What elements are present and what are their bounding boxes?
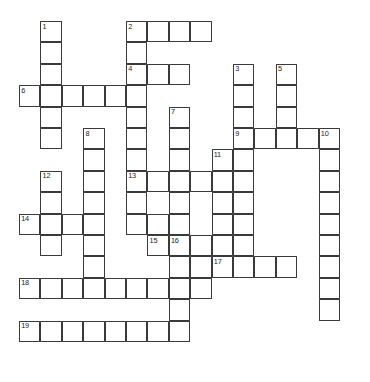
crossword-grid[interactable]: 12345678910111213141516171819 <box>0 0 370 382</box>
crossword-cell[interactable] <box>169 321 190 342</box>
crossword-cell[interactable] <box>319 171 340 192</box>
crossword-cell[interactable] <box>40 321 61 342</box>
crossword-cell[interactable] <box>276 256 297 277</box>
crossword-cell[interactable] <box>83 235 104 256</box>
crossword-cell[interactable] <box>212 192 233 213</box>
crossword-cell[interactable] <box>83 149 104 170</box>
crossword-cell[interactable] <box>40 42 61 63</box>
crossword-cell[interactable] <box>169 64 190 85</box>
crossword-cell[interactable] <box>83 278 104 299</box>
crossword-cell[interactable] <box>126 192 147 213</box>
crossword-cell[interactable] <box>40 171 61 192</box>
crossword-cell[interactable] <box>62 214 83 235</box>
crossword-cell[interactable] <box>169 21 190 42</box>
crossword-cell[interactable] <box>147 235 168 256</box>
crossword-cell[interactable] <box>254 128 275 149</box>
crossword-cell[interactable] <box>233 85 254 106</box>
crossword-cell[interactable] <box>147 214 168 235</box>
crossword-cell[interactable] <box>40 235 61 256</box>
crossword-cell[interactable] <box>126 321 147 342</box>
crossword-cell[interactable] <box>169 256 190 277</box>
crossword-cell[interactable] <box>190 235 211 256</box>
crossword-cell[interactable] <box>126 64 147 85</box>
crossword-cell[interactable] <box>62 85 83 106</box>
crossword-cell[interactable] <box>83 256 104 277</box>
crossword-cell[interactable] <box>126 21 147 42</box>
crossword-cell[interactable] <box>40 128 61 149</box>
crossword-cell[interactable] <box>105 85 126 106</box>
crossword-cell[interactable] <box>319 278 340 299</box>
crossword-cell[interactable] <box>147 21 168 42</box>
crossword-cell[interactable] <box>147 278 168 299</box>
crossword-cell[interactable] <box>190 171 211 192</box>
crossword-cell[interactable] <box>40 278 61 299</box>
crossword-cell[interactable] <box>126 107 147 128</box>
crossword-cell[interactable] <box>169 278 190 299</box>
crossword-cell[interactable] <box>62 278 83 299</box>
crossword-cell[interactable] <box>233 64 254 85</box>
crossword-cell[interactable] <box>126 149 147 170</box>
crossword-cell[interactable] <box>276 85 297 106</box>
crossword-cell[interactable] <box>233 235 254 256</box>
crossword-cell[interactable] <box>276 64 297 85</box>
crossword-cell[interactable] <box>169 149 190 170</box>
crossword-cell[interactable] <box>40 85 61 106</box>
crossword-cell[interactable] <box>212 214 233 235</box>
crossword-cell[interactable] <box>83 214 104 235</box>
crossword-cell[interactable] <box>126 85 147 106</box>
crossword-cell[interactable] <box>233 128 254 149</box>
crossword-cell[interactable] <box>105 321 126 342</box>
crossword-cell[interactable] <box>126 278 147 299</box>
crossword-cell[interactable] <box>169 235 190 256</box>
crossword-cell[interactable] <box>19 278 40 299</box>
crossword-cell[interactable] <box>147 64 168 85</box>
crossword-cell[interactable] <box>169 107 190 128</box>
crossword-cell[interactable] <box>40 64 61 85</box>
crossword-cell[interactable] <box>126 128 147 149</box>
crossword-cell[interactable] <box>190 21 211 42</box>
crossword-cell[interactable] <box>83 171 104 192</box>
crossword-cell[interactable] <box>19 321 40 342</box>
crossword-cell[interactable] <box>62 321 83 342</box>
crossword-cell[interactable] <box>190 256 211 277</box>
crossword-cell[interactable] <box>319 128 340 149</box>
crossword-cell[interactable] <box>169 192 190 213</box>
crossword-cell[interactable] <box>190 278 211 299</box>
crossword-cell[interactable] <box>233 107 254 128</box>
crossword-cell[interactable] <box>169 128 190 149</box>
crossword-cell[interactable] <box>83 128 104 149</box>
crossword-cell[interactable] <box>233 149 254 170</box>
crossword-cell[interactable] <box>83 321 104 342</box>
crossword-cell[interactable] <box>19 85 40 106</box>
crossword-cell[interactable] <box>319 235 340 256</box>
crossword-cell[interactable] <box>83 85 104 106</box>
crossword-cell[interactable] <box>169 171 190 192</box>
crossword-cell[interactable] <box>126 171 147 192</box>
crossword-cell[interactable] <box>276 107 297 128</box>
crossword-cell[interactable] <box>40 214 61 235</box>
crossword-cell[interactable] <box>126 42 147 63</box>
crossword-cell[interactable] <box>212 256 233 277</box>
crossword-cell[interactable] <box>319 192 340 213</box>
crossword-cell[interactable] <box>233 256 254 277</box>
crossword-cell[interactable] <box>40 21 61 42</box>
crossword-cell[interactable] <box>169 214 190 235</box>
crossword-cell[interactable] <box>319 214 340 235</box>
crossword-cell[interactable] <box>319 149 340 170</box>
crossword-cell[interactable] <box>19 214 40 235</box>
crossword-cell[interactable] <box>169 299 190 320</box>
crossword-cell[interactable] <box>147 171 168 192</box>
crossword-cell[interactable] <box>105 278 126 299</box>
crossword-cell[interactable] <box>319 299 340 320</box>
crossword-cell[interactable] <box>319 256 340 277</box>
crossword-cell[interactable] <box>83 192 104 213</box>
crossword-cell[interactable] <box>40 107 61 128</box>
crossword-cell[interactable] <box>254 256 275 277</box>
crossword-cell[interactable] <box>126 214 147 235</box>
crossword-cell[interactable] <box>147 321 168 342</box>
crossword-cell[interactable] <box>233 214 254 235</box>
crossword-cell[interactable] <box>233 192 254 213</box>
crossword-cell[interactable] <box>212 235 233 256</box>
crossword-cell[interactable] <box>297 128 318 149</box>
crossword-cell[interactable] <box>233 171 254 192</box>
